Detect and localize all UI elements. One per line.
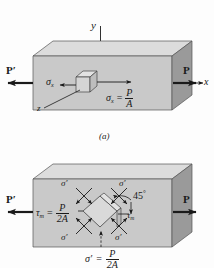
tau-m-equation: τm=P2A [36, 203, 69, 224]
sigma-left-subscript: x [51, 81, 54, 88]
sigma-prime-bottom-left: σ′ [61, 233, 67, 242]
sigma-x-equation-right: σx=PA [106, 88, 133, 109]
tau-fraction: P2A [56, 203, 69, 224]
sigma-prime-caption-equation: σ′=P2A [85, 249, 119, 268]
sigma-prime-caption-symbol: σ′ [85, 253, 92, 264]
sigma-equals-sign: = [117, 92, 123, 103]
y-axis-label: y [91, 20, 96, 31]
caption-fraction: P2A [106, 249, 119, 268]
tau-subscript: m [40, 212, 44, 219]
sigma-x-label-left: σx [46, 77, 54, 88]
load-label-left-b: P′ [6, 194, 16, 205]
caption-denominator: 2A [106, 260, 119, 268]
load-left-a-text: P [6, 64, 13, 76]
tau-equals-sign: = [47, 207, 53, 218]
load-label-right-b: P [183, 194, 190, 205]
tau-denominator: 2A [56, 214, 69, 224]
tau-inner-subscript: m [130, 215, 134, 221]
stress-element-cube [76, 71, 97, 92]
sigma-prime-bottom-right: σ′ [115, 233, 121, 242]
stress-denominator: A [125, 99, 133, 109]
sigma-right-subscript: x [111, 97, 114, 104]
z-axis-label: z [37, 104, 41, 113]
caption-a: (a) [99, 132, 110, 141]
load-label-right-a: P [183, 65, 190, 76]
tau-m-inner-label: τm [127, 211, 134, 221]
load-left-b-text: P [6, 193, 13, 205]
sigma-prime-top-left: σ′ [61, 179, 67, 188]
load-left-b-prime: ′ [13, 193, 16, 205]
load-label-left-a: P′ [6, 65, 16, 76]
stress-fraction: PA [125, 88, 133, 109]
angle-degree-sign: ° [143, 190, 146, 198]
axial-stress-figure: y x z P′ P σx σx=PA (a) P′ P τm=P2A τm 4… [0, 0, 214, 268]
x-axis-label: x [204, 77, 208, 87]
load-left-a-prime: ′ [13, 64, 16, 76]
sigma-prime-top-right: σ′ [119, 179, 125, 188]
angle-label-45: 45° [133, 191, 146, 201]
angle-value: 45 [133, 190, 143, 201]
caption-equals-sign: = [96, 253, 102, 264]
